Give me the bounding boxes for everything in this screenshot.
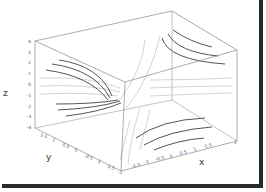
streamlines-left [46, 60, 121, 116]
streamlines-bottom-right [136, 118, 212, 150]
x-tick: 1 [193, 146, 197, 152]
streamplot-3d: 4 3 2 1 0 -1 -2 -3 -4 z 1.5 1 0.5 0 -0.5… [0, 0, 266, 192]
plot-frame: 4 3 2 1 0 -1 -2 -3 -4 z 1.5 1 0.5 0 -0.5… [0, 0, 266, 192]
z-tick: 3 [28, 50, 31, 55]
z-axis: 4 3 2 1 0 -1 -2 -3 -4 z [3, 39, 32, 130]
y-axis: 1.5 1 0.5 0 -0.5 -1 -1.5 -2 y [40, 132, 123, 175]
x-tick: -1.5 [131, 162, 141, 169]
streamlines-top-right [162, 30, 225, 64]
y-tick: -1.5 [106, 163, 116, 171]
x-tick: -0.5 [155, 155, 165, 162]
y-tick: -0.5 [84, 153, 94, 161]
z-tick: 4 [28, 39, 31, 44]
frame-border-bottom [2, 184, 263, 188]
z-tick: -3 [27, 114, 32, 119]
z-tick: -1 [27, 93, 32, 98]
x-tick: 0.5 [179, 149, 187, 156]
z-tick: 1 [28, 71, 31, 76]
y-tick: -2 [118, 170, 123, 175]
y-tick: 0.5 [62, 142, 71, 149]
z-tick: -2 [27, 104, 32, 109]
y-tick: 1 [52, 137, 57, 143]
z-axis-label: z [3, 88, 8, 98]
x-axis-label: x [199, 157, 205, 167]
y-tick: 0 [74, 147, 79, 153]
z-tick: 2 [28, 60, 31, 65]
y-tick: -1 [96, 158, 102, 164]
z-tick: 0 [28, 82, 31, 87]
y-axis-label: y [46, 152, 52, 162]
x-tick: 0 [169, 153, 173, 159]
z-tick: -4 [27, 125, 32, 130]
y-tick: 1.5 [40, 132, 49, 139]
x-tick: 2 [234, 140, 237, 145]
frame-border-right [259, 0, 263, 188]
